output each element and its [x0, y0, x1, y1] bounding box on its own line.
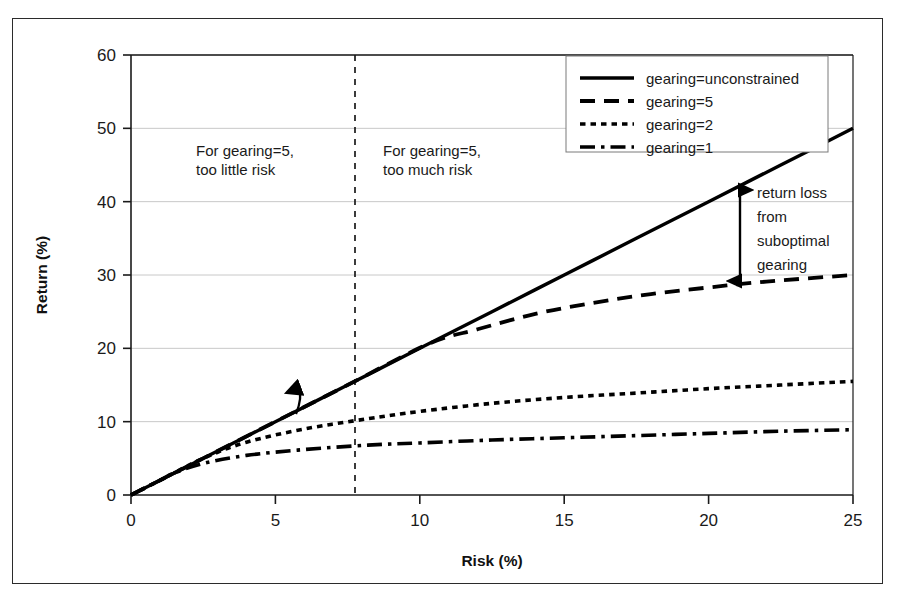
return-loss-line4: gearing	[757, 256, 807, 273]
y-tick-label: 0	[107, 486, 116, 505]
chart-legend: gearing=unconstrainedgearing=5gearing=2g…	[566, 56, 828, 156]
legend-label: gearing=unconstrained	[646, 70, 799, 87]
x-axis-tick-labels: 0510152025	[126, 511, 862, 530]
return-loss-annotation: return loss from suboptimal gearing	[740, 184, 830, 281]
x-tick-label: 0	[126, 511, 135, 530]
y-tick-label: 60	[97, 46, 116, 65]
y-tick-label: 10	[97, 413, 116, 432]
y-tick-label: 40	[97, 193, 116, 212]
legend-label: gearing=1	[646, 139, 713, 156]
x-axis-ticks	[131, 495, 853, 504]
legend-label: gearing=5	[646, 93, 713, 110]
y-axis-tick-labels: 0102030405060	[97, 46, 116, 505]
x-tick-label: 10	[410, 511, 429, 530]
annotation-left-region: For gearing=5, too little risk	[196, 142, 294, 178]
y-tick-label: 30	[97, 266, 116, 285]
right-region-line1: For gearing=5,	[383, 142, 481, 159]
y-tick-label: 50	[97, 119, 116, 138]
x-tick-label: 5	[271, 511, 280, 530]
return-loss-line2: from	[757, 208, 787, 225]
chart-figure: 0102030405060 0510152025 Risk (%) Return…	[0, 0, 897, 608]
annotation-right-region: For gearing=5, too much risk	[383, 142, 481, 178]
left-region-line2: too little risk	[196, 161, 276, 178]
x-tick-label: 15	[555, 511, 574, 530]
y-axis-ticks	[123, 55, 131, 495]
left-region-line1: For gearing=5,	[196, 142, 294, 159]
series-lines	[131, 128, 853, 495]
legend-label: gearing=2	[646, 116, 713, 133]
risk-return-chart: 0102030405060 0510152025 Risk (%) Return…	[0, 0, 897, 608]
right-region-line2: too much risk	[383, 161, 473, 178]
series-line	[131, 275, 853, 495]
return-loss-line1: return loss	[757, 184, 827, 201]
x-tick-label: 25	[844, 511, 863, 530]
y-axis-title: Return (%)	[33, 236, 50, 314]
x-tick-label: 20	[699, 511, 718, 530]
x-axis-title: Risk (%)	[461, 552, 522, 569]
y-tick-label: 20	[97, 339, 116, 358]
return-loss-line3: suboptimal	[757, 232, 830, 249]
